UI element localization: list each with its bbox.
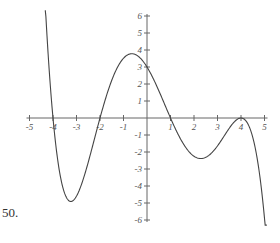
x-tick-label: -3: [73, 122, 81, 132]
y-tick-label: 2: [138, 79, 143, 89]
y-tick-label: -6: [135, 215, 143, 225]
y-tick-label: -3: [135, 164, 143, 174]
x-tick-label: 4: [239, 122, 244, 132]
y-tick-label: -1: [135, 130, 143, 140]
y-tick-label: -5: [135, 198, 143, 208]
axes: [27, 14, 268, 222]
y-tick-label: -4: [135, 181, 143, 191]
y-tick-label: 3: [137, 62, 143, 72]
x-tick-label: 5: [262, 122, 267, 132]
y-tick-label: 5: [138, 28, 143, 38]
x-tick-label: 1: [168, 122, 173, 132]
chart: -5-4-3-2-112345-6-5-4-3-2-1123456: [0, 0, 280, 243]
x-tick-label: -1: [120, 122, 128, 132]
y-tick-label: 1: [138, 96, 143, 106]
x-tick-label: 2: [192, 122, 197, 132]
x-tick-label: -5: [26, 122, 34, 132]
y-tick-label: -2: [135, 147, 143, 157]
y-tick-label: 4: [138, 45, 143, 55]
x-tick-label: 3: [214, 122, 220, 132]
y-tick-label: 6: [138, 11, 143, 21]
